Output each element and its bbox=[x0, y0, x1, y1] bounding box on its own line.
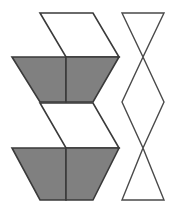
figure-canvas bbox=[0, 0, 172, 213]
geometry-figure bbox=[0, 0, 172, 213]
